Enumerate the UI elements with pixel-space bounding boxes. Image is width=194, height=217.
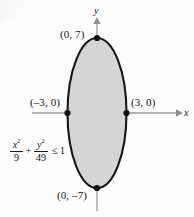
vertex-label-right: (3, 0) xyxy=(131,97,155,108)
ellipse-figure: (0, 7) (–3, 0) (3, 0) (0, –7) x y x2 9 +… xyxy=(0,0,194,217)
y-axis-label: y xyxy=(94,6,98,16)
fraction-x-squared-over-9: x2 9 xyxy=(10,139,23,163)
variable-y: y xyxy=(37,139,41,150)
graph-canvas xyxy=(0,0,194,217)
vertex-point-left xyxy=(64,110,70,116)
x-axis-arrow xyxy=(176,109,183,117)
fraction-denominator-49: 49 xyxy=(34,152,48,164)
plus-operator: + xyxy=(26,146,32,157)
right-hand-side-one: 1 xyxy=(60,146,65,157)
x-axis-label: x xyxy=(184,108,188,118)
vertex-point-bottom xyxy=(94,185,100,191)
vertex-label-top: (0, 7) xyxy=(60,29,84,40)
vertex-label-bottom: (0, –7) xyxy=(57,190,87,201)
fraction-denominator-9: 9 xyxy=(12,152,21,164)
inequality-expression: x2 9 + y2 49 ≤ 1 xyxy=(9,139,65,163)
vertex-point-right xyxy=(123,110,129,116)
exponent-two-x: 2 xyxy=(17,137,20,144)
vertex-label-left: (–3, 0) xyxy=(30,97,60,108)
fraction-numerator-y: y2 xyxy=(35,139,47,151)
vertex-point-top xyxy=(94,35,100,41)
ellipse-region xyxy=(68,38,127,188)
y-axis-arrow xyxy=(93,17,100,24)
fraction-numerator-x: x2 xyxy=(11,139,23,151)
fraction-y-squared-over-49: y2 49 xyxy=(34,139,48,163)
exponent-two-y: 2 xyxy=(42,137,45,144)
less-than-or-equal-sign: ≤ xyxy=(52,146,58,157)
